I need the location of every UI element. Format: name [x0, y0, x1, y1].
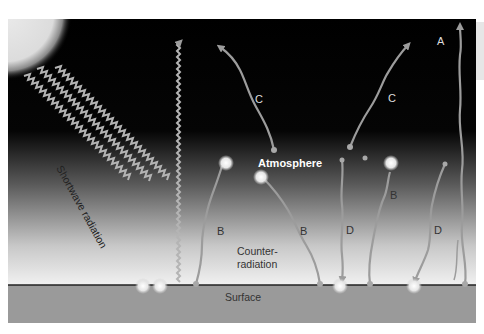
- burst-atmos-3: [383, 155, 399, 171]
- burst-surface-3: [332, 278, 348, 294]
- atmosphere-label: Atmosphere: [258, 157, 322, 169]
- arrow-label-c1: C: [255, 93, 263, 105]
- arrow-label-b2: B: [300, 225, 307, 237]
- burst-surface-2: [152, 278, 168, 294]
- burst-atmos-2: [253, 169, 269, 185]
- side-panel-fragment: [476, 22, 484, 80]
- arrow-d-1: [341, 160, 342, 280]
- arrow-label-d2: D: [434, 224, 442, 236]
- burst-surface-1: [135, 278, 151, 294]
- arrow-label-a: A: [437, 35, 445, 47]
- surface-label: Surface: [225, 291, 261, 303]
- burst-surface-4: [406, 278, 422, 294]
- greenhouse-diagram: Atmosphere Surface Counter- radiation Sh…: [0, 0, 484, 334]
- arrow-label-d1: D: [346, 224, 354, 236]
- arrow-label-b3: B: [390, 189, 397, 201]
- arrow-label-b1: B: [217, 225, 224, 237]
- burst-atmos-1: [218, 155, 234, 171]
- counter-radiation-label-1: Counter-: [237, 245, 278, 257]
- counter-radiation-label-2: radiation: [237, 258, 277, 270]
- arrow-label-c2: C: [388, 92, 396, 104]
